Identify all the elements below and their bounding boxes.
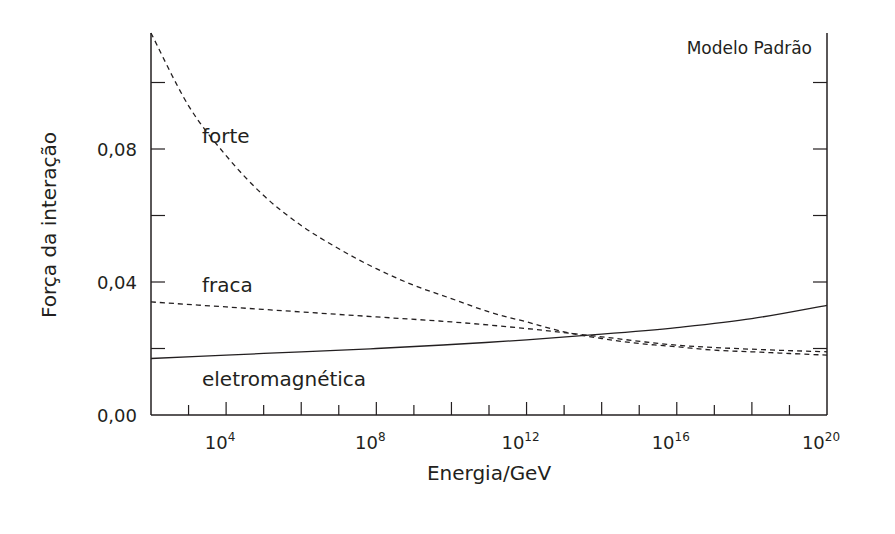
series-fraca-line [151, 302, 827, 352]
series-forte-line [151, 33, 827, 355]
series-label-fraca: fraca [202, 273, 253, 297]
x-axis-title: Energia/GeV [427, 461, 552, 485]
series-label-forte: forte [202, 124, 250, 148]
y-tick-label: 0,04 [97, 272, 137, 293]
axes [151, 33, 827, 415]
y-axis-title: Força da interação [37, 132, 61, 318]
chart-canvas: 0,000,040,08104108101210161020Energia/Ge… [0, 0, 895, 534]
x-tick-label: 108 [355, 430, 386, 453]
series-label-eletromagnetica: eletromagnética [202, 367, 366, 391]
x-tick-label: 1016 [652, 430, 690, 453]
x-tick-label: 1012 [501, 430, 539, 453]
y-tick-label: 0,08 [97, 139, 137, 160]
chart-title: Modelo Padrão [687, 38, 812, 58]
series-group [151, 33, 827, 359]
y-tick-label: 0,00 [97, 405, 137, 426]
labels-group: 0,000,040,08104108101210161020Energia/Ge… [37, 38, 840, 485]
x-tick-label: 1020 [802, 430, 840, 453]
x-tick-label: 104 [205, 430, 236, 453]
